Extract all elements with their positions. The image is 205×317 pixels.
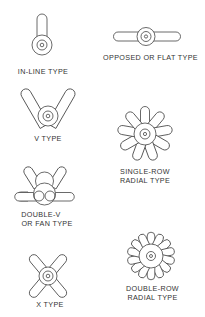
opposed-type-label: OPPOSED OR FLAT TYPE [96, 53, 205, 62]
double-v-type-figure [15, 165, 75, 205]
opposed-type-figure [114, 28, 181, 46]
double-row-radial-label-line1: DOUBLE-ROW [115, 284, 190, 293]
single-row-radial-label-line2: RADIAL TYPE [110, 176, 180, 185]
in-line-type-figure [32, 14, 52, 55]
double-v-label-line1: DOUBLE-V [10, 210, 72, 219]
single-row-radial-figure [117, 107, 173, 162]
in-line-type-label: IN-LINE TYPE [8, 67, 78, 76]
single-row-radial-label-line1: SINGLE-ROW [110, 167, 180, 176]
engine-types-diagram [0, 0, 205, 317]
v-type-label: V TYPE [18, 134, 78, 143]
double-v-label-line2: OR FAN TYPE [12, 219, 82, 228]
x-type-label: X TYPE [20, 300, 80, 309]
x-type-figure [28, 253, 69, 299]
double-row-radial-figure [127, 232, 175, 280]
double-row-radial-label-line2: RADIAL TYPE [115, 293, 190, 302]
v-type-figure [19, 87, 77, 128]
